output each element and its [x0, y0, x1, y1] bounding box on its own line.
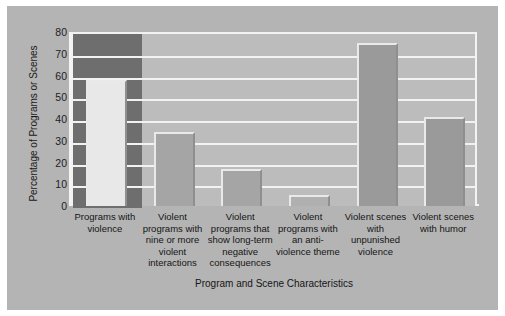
x-category-label: Violent scenes with unpunished violence	[342, 211, 410, 273]
y-tick-label: 0	[41, 201, 67, 211]
x-axis-category-labels: Programs with violence Violent programs …	[71, 211, 477, 273]
gridline	[73, 165, 475, 167]
x-axis-title: Program and Scene Characteristics	[71, 278, 477, 289]
bar-unpunished-violence	[357, 43, 398, 206]
x-category-label: Violent programs that show long-term neg…	[206, 211, 274, 273]
gridline	[73, 78, 475, 80]
gridline	[73, 56, 475, 58]
y-tick-label: 50	[41, 92, 67, 102]
gridline	[73, 186, 475, 188]
y-tick-label: 80	[41, 27, 67, 37]
gridline	[73, 99, 475, 101]
gridline	[73, 121, 475, 123]
plot-area	[71, 32, 477, 206]
x-category-label: Violent scenes with humor	[409, 211, 477, 273]
bar-long-term-consequences	[221, 169, 262, 206]
x-category-label: Violent programs with nine or more viole…	[139, 211, 207, 273]
bar-nine-or-more-interactions	[154, 132, 195, 206]
bar-violent-scenes-with-humor	[424, 117, 465, 206]
x-category-label: Programs with violence	[71, 211, 139, 273]
gridline	[73, 143, 475, 145]
x-category-label: Violent programs with an anti-violence t…	[274, 211, 342, 273]
y-tick-label: 30	[41, 136, 67, 146]
y-axis-tick-labels: 80 70 60 50 40 30 20 10 0	[37, 6, 67, 310]
y-tick-label: 10	[41, 179, 67, 189]
y-tick-label: 20	[41, 158, 67, 168]
bar-programs-with-violence	[86, 80, 127, 206]
chart-figure: Percentage of Programs or Scenes 80 70 6…	[7, 6, 498, 310]
y-tick-label: 40	[41, 114, 67, 124]
bar-anti-violence-theme	[289, 195, 330, 206]
y-tick-label: 60	[41, 71, 67, 81]
y-tick-label: 70	[41, 49, 67, 59]
